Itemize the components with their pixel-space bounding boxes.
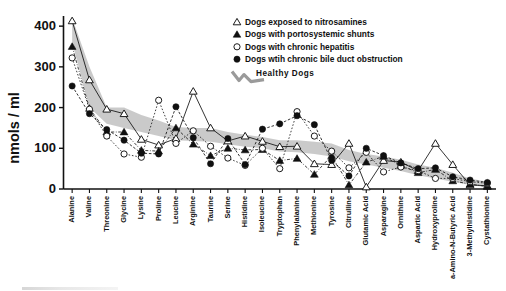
data-point-marker xyxy=(173,140,179,146)
data-point-marker xyxy=(259,126,265,132)
y-tick-label: 400 xyxy=(34,18,56,33)
x-tick-label: 3-Methylhistidine xyxy=(465,196,474,256)
data-point-marker xyxy=(120,128,128,135)
y-tick-label: 300 xyxy=(34,59,56,74)
x-tick-label: Threonine xyxy=(102,196,111,232)
data-point-marker xyxy=(207,161,213,167)
data-point-marker xyxy=(329,148,335,154)
data-point-marker xyxy=(69,55,75,61)
x-tick-label: Arginine xyxy=(188,196,197,226)
data-point-marker xyxy=(346,165,352,171)
data-point-marker xyxy=(156,97,162,103)
data-point-marker xyxy=(345,181,353,188)
x-tick-label: Glutamic Acid xyxy=(361,196,370,246)
data-point-marker xyxy=(189,88,197,95)
data-point-marker xyxy=(432,140,440,147)
data-point-marker xyxy=(484,179,490,185)
legend-label: Dogs exposed to nitrosamines xyxy=(245,17,367,27)
amino-acid-profile-chart: 0100200300400 AlanineValineThreonineGlyc… xyxy=(0,0,506,291)
x-tick-label: Tyrosine xyxy=(327,196,336,226)
legend-label-healthy-dogs: Healthy Dogs xyxy=(256,69,314,78)
legend-label: Dogs with portosystemic shunts xyxy=(245,29,375,39)
x-tick-label: Phenylalanine xyxy=(292,196,301,246)
data-point-marker xyxy=(467,177,473,183)
x-tick-label: Lysine xyxy=(136,196,145,219)
x-tick-label: Serine xyxy=(223,196,232,219)
data-point-marker xyxy=(68,17,76,24)
data-point-marker xyxy=(294,113,300,119)
caption-rule xyxy=(22,287,118,290)
data-point-marker xyxy=(104,126,110,132)
data-point-marker xyxy=(138,150,144,156)
y-axis-title: nmols / ml xyxy=(6,92,22,164)
data-point-marker xyxy=(207,124,215,131)
figure-container: 0100200300400 AlanineValineThreonineGlyc… xyxy=(0,0,506,291)
x-tick-label: Isoleucine xyxy=(257,196,266,232)
data-point-marker xyxy=(415,166,421,172)
data-point-marker xyxy=(277,166,283,172)
data-point-marker xyxy=(363,145,369,151)
x-tick-label: Asparagine xyxy=(379,196,388,236)
data-point-marker xyxy=(311,122,317,128)
y-axis-ticks: 0100200300400 xyxy=(34,18,63,196)
data-point-marker xyxy=(224,145,232,152)
data-point-marker xyxy=(293,155,301,162)
x-tick-label: Ornithine xyxy=(396,196,405,229)
x-tick-label: Valine xyxy=(84,196,93,217)
data-point-marker xyxy=(207,143,213,149)
data-point-marker xyxy=(121,151,127,157)
y-tick-label: 200 xyxy=(34,100,56,115)
data-point-marker xyxy=(225,155,231,161)
x-tick-label: Proline xyxy=(154,196,163,221)
y-tick-label: 0 xyxy=(49,181,56,196)
data-point-marker xyxy=(225,135,231,141)
data-point-marker xyxy=(69,83,75,89)
data-point-marker xyxy=(104,133,110,139)
filled-triangle-icon xyxy=(233,31,241,37)
x-tick-label: Citrulline xyxy=(344,196,353,228)
data-point-marker xyxy=(173,104,179,110)
legend-label: Dogs wtih chronic bile duct obstruction xyxy=(245,54,403,64)
data-point-marker xyxy=(121,137,127,143)
filled-circle-icon xyxy=(234,56,240,62)
x-tick-label: Cystathionine xyxy=(482,196,491,245)
data-point-marker xyxy=(259,145,265,151)
data-point-marker xyxy=(432,175,438,181)
x-tick-label: Taurine xyxy=(206,196,215,222)
x-tick-label: Methionine xyxy=(309,196,318,235)
data-point-marker xyxy=(380,153,386,159)
x-tick-label: Alanine xyxy=(67,196,76,223)
x-axis-labels: AlanineValineThreonineGlycineLysineProli… xyxy=(67,196,491,280)
data-point-marker xyxy=(450,174,456,180)
legend-label: Dogs with chronic hepatitis xyxy=(245,42,355,52)
data-point-marker xyxy=(207,152,215,159)
data-point-marker xyxy=(277,121,283,127)
data-point-marker xyxy=(398,160,404,166)
data-point-marker xyxy=(190,135,196,141)
chart-legend: Dogs exposed to nitrosaminesDogs with po… xyxy=(232,17,403,82)
data-point-marker xyxy=(329,157,335,163)
open-circle-icon xyxy=(234,44,240,50)
data-point-marker xyxy=(362,183,370,190)
x-tick-label: Tryptophan xyxy=(275,196,284,237)
open-triangle-icon xyxy=(233,18,241,24)
x-tick-label: Histidine xyxy=(240,196,249,227)
x-tick-label: Glycine xyxy=(119,196,128,223)
data-point-marker xyxy=(189,141,197,148)
x-tick-label: Aspartic Acid xyxy=(413,196,422,244)
data-point-marker xyxy=(311,133,317,139)
data-point-marker xyxy=(137,136,145,143)
data-point-marker xyxy=(432,165,438,171)
data-point-marker xyxy=(380,169,386,175)
y-tick-label: 100 xyxy=(34,140,56,155)
data-point-marker xyxy=(242,161,248,167)
x-tick-label: Leucine xyxy=(171,196,180,224)
data-point-marker xyxy=(86,111,92,117)
data-point-marker xyxy=(345,140,353,147)
data-point-marker xyxy=(190,128,196,134)
data-point-marker xyxy=(156,151,162,157)
x-tick-label: a-Amino-N-Butyric Acid xyxy=(448,196,457,280)
x-tick-label: Hydroxyproline xyxy=(430,196,439,250)
data-point-marker xyxy=(346,173,352,179)
